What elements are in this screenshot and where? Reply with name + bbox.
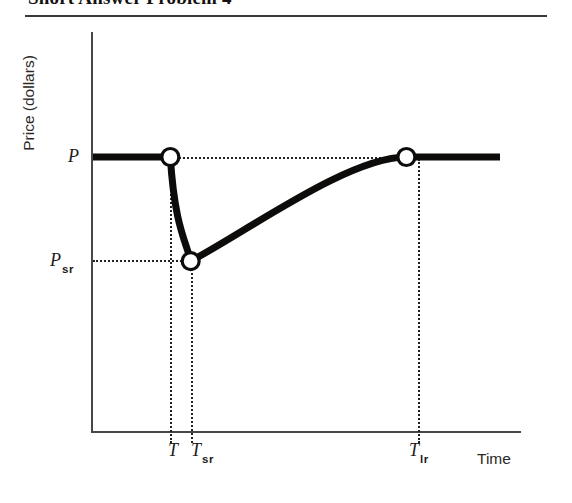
price-path-line [93,157,500,261]
header-divider [25,15,547,17]
marker-T [162,149,179,166]
price-time-chart: Price (dollars) Time P Psr T Tsr Tlr [0,22,572,503]
price-path-svg [0,22,572,503]
marker-Tlr [398,149,415,166]
marker-Tsr [182,253,199,270]
price-path-markers [162,149,415,270]
page-title: Short Answer Problem 4 [28,0,232,9]
